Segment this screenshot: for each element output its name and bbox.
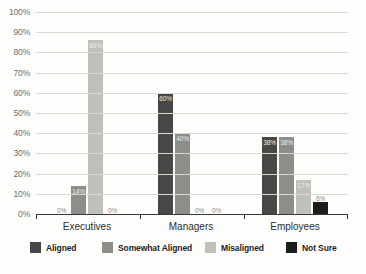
category-tick <box>347 214 348 219</box>
bar[interactable] <box>313 202 328 214</box>
legend-swatch-icon <box>286 242 297 253</box>
bar-value-label: 38% <box>280 139 293 146</box>
plot-area: 0%14%86%0%60%40%0%0%38%38%17%6% <box>36 12 348 214</box>
bar-value-label: 6% <box>316 195 325 202</box>
chart-legend: AlignedSomewhat AlignedMisalignedNot Sur… <box>30 242 350 258</box>
gridline <box>36 93 348 94</box>
legend-label: Not Sure <box>302 243 337 253</box>
bar-value-label: 0% <box>108 207 117 214</box>
gridline <box>36 174 348 175</box>
gridline <box>36 52 348 53</box>
y-axis-tick-label: 80% <box>14 47 30 57</box>
category-label: Employees <box>270 221 319 232</box>
bar-value-label: 0% <box>212 207 221 214</box>
bar[interactable]: 38% <box>262 137 277 214</box>
legend-item[interactable]: Somewhat Aligned <box>102 242 192 253</box>
category-tick <box>140 214 141 219</box>
legend-swatch-icon <box>205 242 216 253</box>
bar-value-label-holder: 0% <box>54 204 69 214</box>
y-axis-tick-label: 10% <box>14 189 30 199</box>
y-axis-tick-label: 30% <box>14 148 30 158</box>
bar[interactable]: 38% <box>279 137 294 214</box>
legend-item[interactable]: Aligned <box>30 242 76 253</box>
y-axis-tick-label: 20% <box>14 169 30 179</box>
bar-value-label-holder: 0% <box>105 204 120 214</box>
y-axis-tick-label: 70% <box>14 68 30 78</box>
category-labels: ExecutivesManagersEmployees <box>36 221 348 235</box>
legend-label: Somewhat Aligned <box>118 243 192 253</box>
bar[interactable]: 17% <box>296 180 311 214</box>
y-axis-tick-label: 40% <box>14 128 30 138</box>
gridline <box>36 73 348 74</box>
gridline <box>36 153 348 154</box>
bar-value-label: 38% <box>263 139 276 146</box>
y-axis-tick-label: 0% <box>18 209 30 219</box>
y-axis-tick-label: 50% <box>14 108 30 118</box>
category-label: Managers <box>169 221 213 232</box>
bar-value-label: 0% <box>195 207 204 214</box>
y-axis-tick-label: 100% <box>9 7 30 17</box>
gridline <box>36 133 348 134</box>
legend-swatch-icon <box>102 242 113 253</box>
legend-item[interactable]: Not Sure <box>286 242 337 253</box>
y-axis-tick-label: 60% <box>14 88 30 98</box>
bar[interactable]: 86% <box>88 40 103 214</box>
category-tick <box>36 214 37 219</box>
y-axis: 0%10%20%30%40%50%60%70%80%90%100% <box>0 12 34 214</box>
bar-value-label: 60% <box>159 95 172 102</box>
bar-value-label: 0% <box>57 207 66 214</box>
gridline <box>36 194 348 195</box>
category-label: Executives <box>63 221 111 232</box>
bar-value-label: 86% <box>89 42 102 49</box>
y-axis-tick-label: 90% <box>14 27 30 37</box>
bar[interactable]: 14% <box>71 186 86 214</box>
gridline <box>36 113 348 114</box>
legend-item[interactable]: Misaligned <box>205 242 264 253</box>
bar-chart: 0%10%20%30%40%50%60%70%80%90%100% 0%14%8… <box>0 0 366 274</box>
category-tick <box>244 214 245 219</box>
bar-value-label-holder: 0% <box>209 204 224 214</box>
legend-swatch-icon <box>30 242 41 253</box>
gridline <box>36 12 348 13</box>
gridline <box>36 32 348 33</box>
bar-value-label-holder: 0% <box>192 204 207 214</box>
legend-label: Aligned <box>46 243 76 253</box>
bar-value-label: 40% <box>176 135 189 142</box>
legend-label: Misaligned <box>221 243 264 253</box>
bar-value-label: 17% <box>297 182 310 189</box>
